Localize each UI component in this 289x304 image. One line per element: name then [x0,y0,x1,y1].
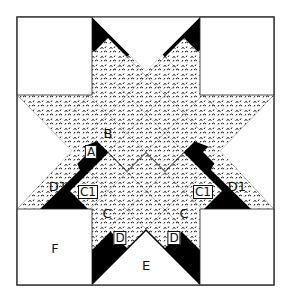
label-a: A [85,145,97,159]
label-c-left: C [102,207,111,220]
label-c-right: C [179,207,188,220]
label-b: B [104,127,113,140]
corner-square-top-right [200,17,274,95]
corner-square-bottom-right [200,209,274,285]
corner-square-top-left [17,17,92,95]
label-d1-left: D1 [49,180,67,193]
label-f: F [51,242,58,255]
label-d-right: D [167,231,180,245]
label-e: E [142,259,150,272]
label-c1-left: C1 [78,185,98,199]
label-c1-right: C1 [193,185,213,199]
label-d-left: D [113,231,126,245]
label-d1-right: D1 [228,180,246,193]
